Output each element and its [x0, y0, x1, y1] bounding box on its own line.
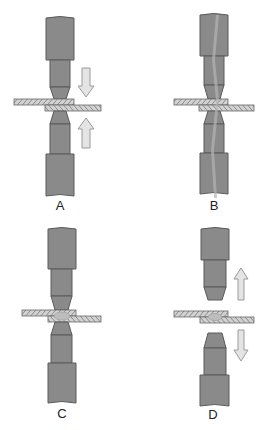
workpiece-sheets — [14, 99, 101, 111]
force-arrow-down-icon — [78, 68, 94, 97]
weld-nugget — [208, 314, 222, 321]
panel-label: C — [52, 406, 72, 421]
upper-electrode — [201, 228, 229, 301]
panel-label: B — [204, 198, 224, 213]
upper-electrode — [46, 17, 74, 100]
retract-arrow-up-icon — [234, 268, 248, 300]
weld-nugget — [54, 312, 70, 320]
retract-arrow-down-icon — [234, 330, 248, 361]
force-arrow-up-icon — [78, 118, 94, 148]
panel-a: A — [0, 0, 134, 215]
lower-electrode — [200, 333, 229, 406]
panel-label: D — [203, 407, 223, 422]
panel-label: A — [50, 198, 70, 213]
panel-d: D — [134, 215, 268, 430]
lower-electrode — [46, 111, 74, 196]
upper-electrode-tip — [51, 296, 72, 310]
panel-c: C — [0, 215, 134, 430]
panel-b: B — [134, 0, 268, 215]
upper-electrode — [48, 228, 76, 297]
lower-electrode — [48, 322, 76, 403]
workpiece-sheets — [174, 99, 254, 111]
